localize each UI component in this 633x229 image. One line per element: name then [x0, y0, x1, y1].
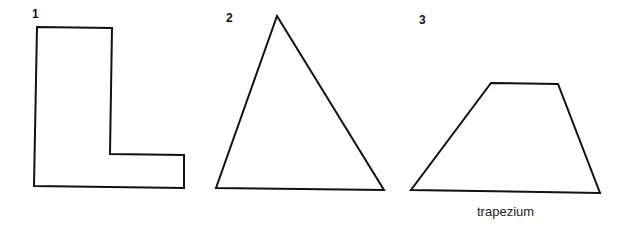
trapezium-shape: [411, 83, 600, 193]
shape-1-number: 1: [32, 8, 39, 20]
shape-3-number: 3: [419, 14, 426, 26]
triangle-shape: [216, 16, 384, 190]
shapes-canvas: [0, 0, 633, 229]
trapezium-caption: trapezium: [477, 205, 534, 218]
shape-2-number: 2: [226, 12, 233, 24]
l-shape: [34, 27, 184, 188]
